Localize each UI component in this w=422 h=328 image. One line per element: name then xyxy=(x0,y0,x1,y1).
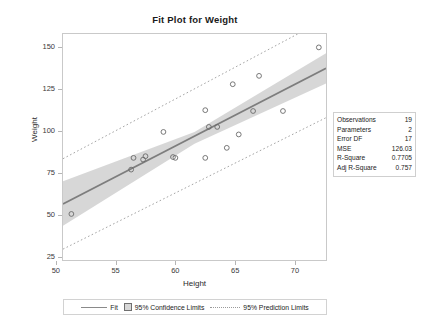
y-tick-label-50: 50 xyxy=(33,210,55,219)
fit-plot-page: Fit Plot for Weight Weight 2550751001251… xyxy=(0,0,422,328)
page-title: Fit Plot for Weight xyxy=(0,14,390,25)
chart-legend: Fit 95% Confidence Limits 95% Prediction… xyxy=(63,299,327,315)
y-tick-label-100: 100 xyxy=(33,126,55,135)
statistics-row: MSE126.03 xyxy=(337,144,412,154)
statistics-row: Error DF17 xyxy=(337,134,412,144)
legend-item-prediction: 95% Prediction Limits xyxy=(210,304,308,311)
statistics-row: Parameters2 xyxy=(337,125,412,135)
statistics-value: 0.7705 xyxy=(388,153,412,163)
data-point xyxy=(161,130,166,135)
statistics-value: 19 xyxy=(401,115,412,125)
data-point xyxy=(236,132,241,137)
x-tick-label-70: 70 xyxy=(284,266,306,275)
legend-item-fit: Fit xyxy=(81,304,118,311)
x-tick-label-50: 50 xyxy=(45,266,67,275)
x-axis-title: Height xyxy=(62,279,327,288)
statistics-label: MSE xyxy=(337,144,351,154)
x-tick-mark xyxy=(295,261,296,265)
x-tick-mark xyxy=(116,261,117,265)
confidence-band xyxy=(63,53,326,225)
data-point xyxy=(203,155,208,160)
plot-area xyxy=(62,33,327,261)
plot-canvas xyxy=(63,34,326,260)
y-tick-label-75: 75 xyxy=(33,168,55,177)
statistics-row: Adj R-Square0.757 xyxy=(337,163,412,173)
statistics-row: Observations19 xyxy=(337,115,412,125)
y-tick-label-125: 125 xyxy=(33,84,55,93)
x-tick-mark xyxy=(56,261,57,265)
legend-item-confidence: 95% Confidence Limits xyxy=(124,303,205,311)
statistics-label: Adj R-Square xyxy=(337,163,377,173)
statistics-label: R-Square xyxy=(337,153,365,163)
x-tick-label-55: 55 xyxy=(105,266,127,275)
statistics-value: 0.757 xyxy=(391,163,412,173)
statistics-label: Observations xyxy=(337,115,376,125)
data-point xyxy=(257,73,262,78)
y-tick-label-25: 25 xyxy=(33,252,55,261)
data-point xyxy=(224,145,229,150)
statistics-value: 126.03 xyxy=(388,144,412,154)
prediction-limits-swatch-icon xyxy=(210,307,240,308)
legend-label-prediction: 95% Prediction Limits xyxy=(243,304,308,311)
statistics-label: Parameters xyxy=(337,125,371,135)
statistics-box: Observations19Parameters2Error DF17MSE12… xyxy=(333,112,416,177)
x-tick-label-65: 65 xyxy=(224,266,246,275)
statistics-value: 17 xyxy=(401,134,412,144)
data-point xyxy=(230,82,235,87)
data-point xyxy=(316,45,321,50)
legend-label-confidence: 95% Confidence Limits xyxy=(135,304,205,311)
data-point xyxy=(281,109,286,114)
statistics-row: R-Square0.7705 xyxy=(337,153,412,163)
y-tick-label-150: 150 xyxy=(33,42,55,51)
x-tick-mark xyxy=(175,261,176,265)
legend-label-fit: Fit xyxy=(110,304,118,311)
statistics-value: 2 xyxy=(404,125,412,135)
statistics-label: Error DF xyxy=(337,134,362,144)
data-point xyxy=(203,108,208,113)
fit-line-swatch-icon xyxy=(81,307,107,308)
confidence-band-swatch-icon xyxy=(124,303,132,311)
x-tick-mark xyxy=(235,261,236,265)
x-tick-label-60: 60 xyxy=(164,266,186,275)
